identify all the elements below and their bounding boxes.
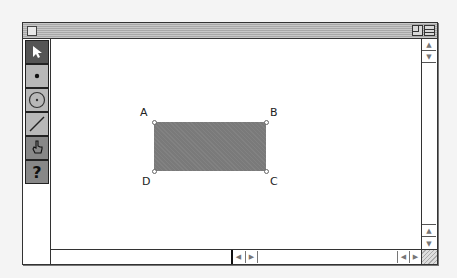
hand-icon [30, 140, 44, 156]
vertex-c[interactable] [264, 169, 269, 174]
horizontal-scrollbar[interactable]: ◀ ▶ ◀ ▶ [51, 249, 421, 264]
info-tool[interactable]: ? [25, 160, 49, 184]
rectangle-abcd[interactable] [154, 122, 266, 171]
label-c[interactable]: C [270, 175, 278, 188]
arrow-right-icon: ▶ [249, 253, 254, 261]
close-box[interactable] [27, 26, 37, 36]
scroll-up-button[interactable]: ▲ [422, 39, 436, 51]
line-segment-icon [28, 115, 46, 133]
toolbox: ? [24, 39, 51, 264]
scroll-down-button-bottom[interactable]: ▼ [422, 238, 436, 249]
arrow-down-icon: ▼ [426, 53, 431, 61]
scroll-down-button[interactable]: ▼ [422, 51, 436, 63]
collapse-box[interactable] [424, 25, 435, 36]
arrow-up-icon: ▲ [426, 41, 431, 49]
sketch-canvas[interactable]: A B C D [51, 39, 421, 249]
point-icon [33, 72, 41, 80]
vertex-a[interactable] [152, 120, 157, 125]
arrow-pointer-icon [31, 45, 43, 59]
scroll-right-button-end[interactable]: ▶ [409, 251, 421, 263]
label-b[interactable]: B [270, 106, 278, 119]
scroll-left-button[interactable]: ◀ [233, 251, 244, 263]
scroll-up-button-bottom[interactable]: ▲ [422, 224, 436, 237]
straightedge-tool[interactable] [25, 112, 49, 136]
text-tool[interactable] [25, 136, 49, 160]
point-tool[interactable] [25, 64, 49, 88]
title-bar[interactable] [23, 23, 437, 39]
arrow-up-icon: ▲ [426, 227, 431, 235]
arrow-left-icon: ◀ [236, 253, 241, 261]
arrow-left-icon: ◀ [401, 253, 406, 261]
resize-grip[interactable] [421, 249, 437, 264]
zoom-box[interactable] [412, 25, 423, 36]
vertex-b[interactable] [264, 120, 269, 125]
vertical-scrollbar[interactable]: ▲ ▼ ▲ ▼ [421, 39, 437, 249]
label-a[interactable]: A [140, 106, 148, 119]
label-d[interactable]: D [142, 175, 150, 188]
circle-icon [28, 91, 46, 109]
arrow-down-icon: ▼ [426, 240, 431, 248]
scroll-left-button-end[interactable]: ◀ [397, 251, 409, 263]
vertex-d[interactable] [152, 169, 157, 174]
compass-tool[interactable] [25, 88, 49, 112]
arrow-right-icon: ▶ [413, 253, 418, 261]
arrow-tool[interactable] [25, 40, 49, 64]
sketch-window: ? A B C D ▲ ▼ ▲ ▼ ◀ ▶ [22, 22, 438, 265]
question-icon: ? [32, 163, 41, 182]
scroll-right-button[interactable]: ▶ [245, 251, 258, 263]
